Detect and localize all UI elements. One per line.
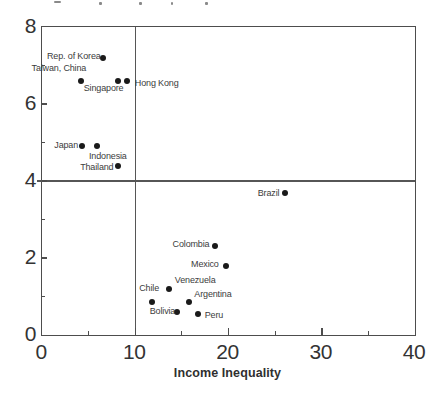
point-label-taiwan-china: Taiwan, China	[32, 63, 87, 73]
reference-line-y-4	[37, 180, 415, 182]
x-tick-label-20: 20	[206, 341, 250, 363]
point-label-hong-kong: Hong Kong	[135, 78, 179, 88]
data-point-japan	[79, 143, 85, 149]
data-point-chile	[149, 299, 155, 305]
point-label-bolivia: Bolivia	[150, 306, 175, 316]
point-label-peru: Peru	[205, 310, 223, 320]
figure: Rep. of KoreaTaiwan, ChinaSingaporeHong …	[0, 0, 437, 399]
point-label-thailand: Thailand	[80, 162, 113, 172]
plot-area: Rep. of KoreaTaiwan, ChinaSingaporeHong …	[41, 26, 416, 336]
data-point-thailand	[115, 163, 121, 169]
x-tick-label-30: 30	[299, 341, 343, 363]
x-major-tick-20	[228, 328, 230, 335]
data-point-colombia	[212, 243, 218, 249]
x-minor-tick-5	[88, 331, 89, 335]
clipped-title-fragment	[139, 2, 142, 5]
x-tick-label-40: 40	[392, 341, 436, 363]
x-minor-tick-25	[275, 331, 276, 335]
y-tick-label-0: 0	[2, 323, 36, 345]
y-minor-tick-1	[42, 296, 45, 297]
y-major-tick-4	[42, 180, 47, 182]
point-label-venezuela: Venezuela	[175, 275, 216, 285]
data-point-indonesia	[94, 143, 100, 149]
clipped-title-fragment	[171, 2, 173, 5]
y-minor-tick-3	[42, 219, 45, 220]
clipped-title-fragment	[205, 2, 208, 5]
x-minor-tick-15	[181, 331, 182, 335]
point-label-indonesia: Indonesia	[89, 151, 127, 161]
point-label-singapore: Singapore	[84, 83, 124, 93]
data-point-hong-kong	[124, 78, 130, 84]
y-minor-tick-5	[42, 142, 45, 143]
y-tick-label-4: 4	[2, 169, 36, 191]
y-tick-label-8: 8	[2, 15, 36, 37]
clipped-title-fragment	[54, 1, 61, 3]
point-label-japan: Japan	[54, 140, 78, 150]
y-major-tick-6	[42, 103, 47, 105]
data-point-brazil	[282, 190, 288, 196]
y-tick-label-6: 6	[2, 92, 36, 114]
point-label-mexico: Mexico	[191, 259, 219, 269]
point-label-colombia: Colombia	[173, 239, 210, 249]
point-label-argentina: Argentina	[194, 289, 231, 299]
x-major-tick-30	[321, 328, 323, 335]
x-minor-tick-35	[368, 331, 369, 335]
data-point-mexico	[223, 263, 229, 269]
data-point-venezuela	[166, 286, 172, 292]
point-label-chile: Chile	[139, 283, 159, 293]
y-major-tick-2	[42, 257, 47, 259]
x-major-tick-10	[135, 328, 137, 335]
x-axis-title: Income Inequality	[41, 366, 414, 380]
point-label-brazil: Brazil	[258, 188, 280, 198]
y-tick-label-2: 2	[2, 246, 36, 268]
clipped-title-fragment	[99, 2, 102, 5]
x-tick-label-10: 10	[112, 341, 156, 363]
point-label-rep-of-korea: Rep. of Korea	[47, 51, 101, 61]
data-point-peru	[195, 311, 201, 317]
data-point-argentina	[186, 299, 192, 305]
